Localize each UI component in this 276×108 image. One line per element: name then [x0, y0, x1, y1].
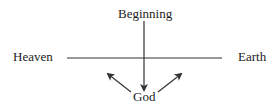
god-to-heaven-arrow: [108, 74, 131, 92]
label-earth: Earth: [238, 50, 266, 63]
label-heaven: Heaven: [13, 50, 53, 63]
god-to-earth-arrow: [158, 74, 181, 92]
cross-diagram: Beginning Heaven Earth God: [0, 0, 276, 108]
label-god: God: [133, 90, 155, 103]
label-beginning: Beginning: [118, 7, 172, 20]
